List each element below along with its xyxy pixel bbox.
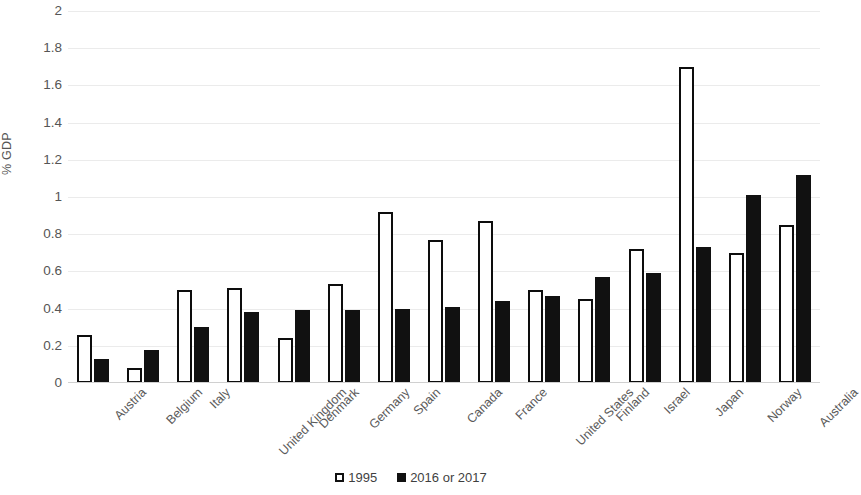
plot-area (68, 11, 820, 383)
bar (378, 212, 393, 383)
bar (545, 296, 560, 383)
bar-group (118, 11, 168, 383)
bar-group (469, 11, 519, 383)
bar (679, 67, 694, 383)
bar-group (619, 11, 669, 383)
y-axis-tick-label: 1.2 (22, 153, 62, 167)
bar-group (269, 11, 319, 383)
bar (445, 307, 460, 383)
y-axis-tick-label: 1 (22, 190, 62, 204)
bar-group (168, 11, 218, 383)
bar (395, 309, 410, 383)
bar (696, 247, 711, 383)
x-axis-tick-label: Japan (713, 386, 746, 419)
x-axis-tick-label: Israel (661, 386, 691, 416)
y-axis-title: % GDP (0, 95, 20, 175)
bar (478, 221, 493, 383)
x-axis-tick-labels: AustriaBelgiumItalyUnited KingdomDenmark… (68, 386, 820, 466)
bar (127, 368, 142, 383)
bar-group (419, 11, 469, 383)
bar (779, 225, 794, 383)
bar (77, 335, 92, 383)
bar (578, 299, 593, 383)
bar-group (369, 11, 419, 383)
bar-group (68, 11, 118, 383)
y-axis-tick-label: 0 (22, 376, 62, 390)
x-axis-tick-label: Canada (465, 386, 505, 426)
bar-group (569, 11, 619, 383)
bar (796, 175, 811, 383)
y-axis-tick-label: 2 (22, 4, 62, 18)
y-axis-tick-label: 0.8 (22, 227, 62, 241)
legend-item[interactable]: 2016 or 2017 (397, 470, 487, 485)
legend-item[interactable]: 1995 (335, 470, 377, 485)
bar-group (720, 11, 770, 383)
chart-legend: 19952016 or 2017 (0, 470, 822, 485)
bar (646, 273, 661, 383)
x-axis-tick-label: United Kingdom (278, 386, 350, 458)
x-axis-tick-label: France (514, 386, 550, 422)
bar (729, 253, 744, 383)
x-axis-tick-label: Belgium (164, 386, 205, 427)
bar (177, 290, 192, 383)
x-axis-tick-label: Italy (208, 386, 233, 411)
bar (244, 312, 259, 383)
y-axis-tick-labels: 21.81.61.41.210.80.60.40.20 (22, 0, 62, 395)
bars-layer (68, 11, 820, 383)
y-axis-tick-label: 0.6 (22, 265, 62, 279)
bar (746, 195, 761, 383)
bar-group (319, 11, 369, 383)
x-axis-tick-label: Australia (817, 386, 860, 429)
legend-label: 2016 or 2017 (410, 470, 487, 485)
bar-group (670, 11, 720, 383)
bar (495, 301, 510, 383)
bar (295, 310, 310, 383)
y-axis-tick-label: 1.4 (22, 116, 62, 130)
legend-label: 1995 (348, 470, 377, 485)
bar-group (519, 11, 569, 383)
bar (428, 240, 443, 383)
x-axis-line (68, 382, 820, 383)
bar (194, 327, 209, 383)
x-axis-tick-label: Austria (112, 386, 148, 422)
y-axis-tick-label: 0.2 (22, 339, 62, 353)
bar (528, 290, 543, 383)
bar (144, 350, 159, 383)
bar (345, 310, 360, 383)
bar-group (218, 11, 268, 383)
outline-square-icon (335, 473, 344, 482)
filled-square-icon (397, 473, 406, 482)
bar (328, 284, 343, 383)
y-axis-tick-label: 1.6 (22, 79, 62, 93)
y-axis-tick-label: 0.4 (22, 302, 62, 316)
bar (227, 288, 242, 383)
bar-group (770, 11, 820, 383)
bar (595, 277, 610, 383)
y-axis-tick-label: 1.8 (22, 41, 62, 55)
bar (629, 249, 644, 383)
bar (278, 338, 293, 383)
x-axis-tick-label: Spain (411, 386, 442, 417)
bar (94, 359, 109, 383)
x-axis-tick-label: Germany (367, 386, 412, 431)
x-axis-tick-label: Norway (765, 386, 804, 425)
